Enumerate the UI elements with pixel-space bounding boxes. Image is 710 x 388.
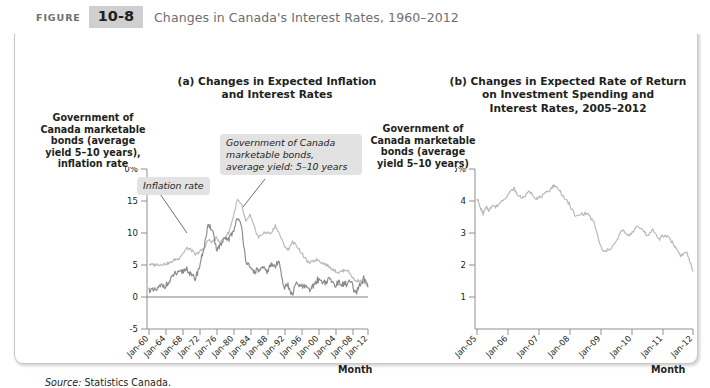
panel-b-xtick-4: Jan-09 [576, 333, 603, 360]
panel-b-bond-yield-line [477, 185, 693, 272]
panel-a-bond-leader-line [243, 179, 265, 207]
panel-a-bonds-callout: Government of Canadamarketable bonds,ave… [220, 134, 362, 175]
source-label: Source: [45, 377, 81, 388]
panel-b-ytick-3: 2 [461, 260, 466, 270]
panel-a-ytick-2: 10 [127, 228, 138, 238]
panel-b-xtick-6: Jan-11 [638, 333, 665, 360]
panel-a-inflation-line [149, 219, 368, 296]
panel-a-x-ticks: Jan-60 Jan-64 Jan-68 Jan-72 Jan-76 Jan-8… [125, 329, 369, 360]
source-note: Source: Statistics Canada. [45, 377, 171, 388]
panel-b-ytick-2: 3 [461, 228, 466, 238]
panel-b-ytick-4: 1 [461, 292, 466, 302]
figure-header: FIGURE 10-8 Changes in Canada's Interest… [0, 0, 710, 34]
panel-a-y-axis-label: Government ofCanada marketablebonds (ave… [33, 112, 153, 170]
panel-b-xtick-5: Jan-10 [607, 333, 634, 360]
panel-b-ytick-1: 4 [461, 196, 466, 206]
panel-a-ytick-0: 20% [125, 167, 138, 174]
panel-b-xtick-7: Jan-12 [668, 333, 695, 360]
panel-a-ytick-3: 5 [133, 260, 138, 270]
figure-title: Changes in Canada's Interest Rates, 1960… [154, 10, 459, 25]
figure-word-label: FIGURE [36, 12, 81, 23]
panel-b-ytick-0: 5% [455, 167, 466, 174]
panel-b-x-ticks: Jan-05 Jan-06 Jan-07 Jan-08 Jan-09 Jan-1… [455, 329, 694, 360]
panel-b-xtick-1: Jan-06 [483, 333, 510, 360]
panel-b-x-axis-label: Month [651, 364, 685, 375]
figure-number-badge: 10-8 [89, 6, 143, 28]
panel-b-chart: 5% 4 3 2 1 Jan-05 Jan-06 Jan-07 Jan-08 J… [455, 167, 700, 367]
panel-a-ytick-5: -5 [129, 324, 138, 334]
figure-card: (a) Changes in Expected Inflationand Int… [14, 26, 698, 364]
panel-b-xtick-2: Jan-07 [514, 333, 541, 360]
source-text: Statistics Canada. [84, 377, 170, 388]
panel-a-chart: 20% 15 10 5 0 -5 [125, 167, 375, 367]
panel-b-y-axis-label: Government ofCanada marketablebonds (ave… [367, 123, 479, 169]
panel-b-title: (b) Changes in Expected Rate of Returnon… [429, 75, 707, 115]
panel-b-y-ticks: 5% 4 3 2 1 [455, 167, 475, 302]
panel-b-xtick-0: Jan-05 [455, 333, 478, 360]
panel-a-x-axis-label: Month [338, 364, 372, 375]
panel-a-ytick-1: 15 [127, 196, 138, 206]
panel-b-xtick-3: Jan-08 [545, 333, 572, 360]
panel-a-title: (a) Changes in Expected Inflationand Int… [143, 75, 411, 102]
panel-a-inflation-callout: Inflation rate [137, 177, 210, 195]
panel-a-inflation-leader-line [158, 191, 187, 233]
panel-a-ytick-4: 0 [133, 292, 138, 302]
